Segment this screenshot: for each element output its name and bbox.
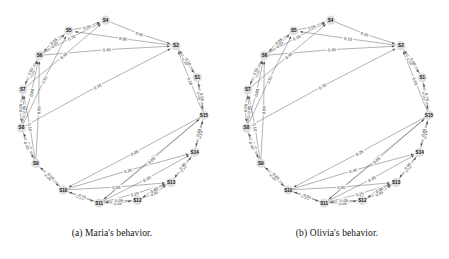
graph-node-s13[interactable]: S13 — [167, 178, 176, 187]
graph-node-s8[interactable]: S8 — [17, 123, 26, 132]
graph-node-s1[interactable]: S1 — [418, 73, 427, 82]
graph-node-s5[interactable]: S5 — [64, 26, 73, 35]
graph-node-s2[interactable]: S2 — [396, 41, 405, 50]
edge-label-group: 0.20 — [122, 167, 133, 175]
edge-label-group: 0.05 — [81, 23, 92, 31]
edge-label-group: 0.40 — [326, 47, 337, 53]
edge-arrow-icon — [248, 96, 250, 99]
edge-weight-label: 0.50 — [337, 184, 346, 190]
node-label: S4 — [103, 18, 109, 23]
panel-a: 0.050.050.500.050.050.400.050.050.400.05… — [0, 0, 224, 259]
graph-node-s4[interactable]: S4 — [101, 16, 110, 25]
edge-arrow-icon — [353, 201, 356, 203]
graph-node-s11[interactable]: S11 — [320, 199, 329, 208]
graph-node-s1[interactable]: S1 — [193, 73, 202, 82]
node-label: S14 — [416, 150, 425, 155]
graph-node-s9[interactable]: S9 — [31, 159, 40, 168]
edge-label-group: 0.25 — [354, 148, 366, 157]
edge-label-group: 0.80 — [28, 87, 35, 98]
graph-node-s2[interactable]: S2 — [171, 41, 180, 50]
edge-label-group: 0.50 — [265, 74, 274, 86]
edge-label-group: 0.90 — [118, 36, 129, 42]
graph-node-s6[interactable]: S6 — [260, 51, 269, 60]
edge-label-group: 0.10 — [141, 174, 153, 183]
graph-node-s8[interactable]: S8 — [242, 123, 251, 132]
edge-weight-label: 0.10 — [344, 36, 353, 42]
edge-label-group: 0.55 — [111, 184, 122, 190]
graph-b: 0.050.050.500.050.050.400.050.050.400.10… — [225, 0, 449, 225]
caption-b: (b) Olivia's behavior. — [225, 228, 449, 238]
graph-node-s13[interactable]: S13 — [392, 178, 401, 187]
node-label: S9 — [258, 161, 264, 166]
node-label: S15 — [425, 113, 434, 118]
panel-b: 0.050.050.500.050.050.400.050.050.400.10… — [225, 0, 449, 259]
node-label: S13 — [392, 180, 401, 185]
graph-node-s4[interactable]: S4 — [326, 16, 335, 25]
graph-node-s14[interactable]: S14 — [190, 148, 199, 157]
node-label: S7 — [245, 87, 251, 92]
node-label: S6 — [262, 53, 268, 58]
node-label: S5 — [66, 28, 72, 33]
edge-label-group: 0.50 — [336, 184, 347, 190]
graph-node-s9[interactable]: S9 — [256, 159, 265, 168]
graph-node-s11[interactable]: S11 — [95, 199, 104, 208]
edge-arrow-icon — [23, 96, 25, 99]
edge-label-group: 0.50 — [40, 74, 49, 86]
edge-label-group: 0.80 — [36, 105, 41, 116]
edge-label-group: 0.70 — [317, 82, 329, 91]
graph-node-s12[interactable]: S12 — [358, 196, 367, 205]
edge-weight-label: 0.40 — [103, 47, 112, 53]
edge-label-group: 0.05 — [18, 103, 23, 114]
edge-arrow-icon — [263, 62, 265, 65]
edge-arrow-icon — [167, 45, 170, 47]
graph-node-s15[interactable]: S15 — [199, 111, 208, 120]
edge-arrow-icon — [128, 201, 131, 203]
node-label: S8 — [244, 125, 250, 130]
edge-arrow-icon — [423, 84, 425, 87]
edge-label-group: 0.40 — [101, 47, 112, 53]
node-label: S1 — [419, 75, 425, 80]
edge-label-group: 0.40 — [347, 167, 358, 175]
node-label: S4 — [328, 18, 334, 23]
edge-weight-label: 0.05 — [340, 198, 349, 204]
graph-a: 0.050.050.500.050.050.400.050.050.400.05… — [0, 0, 224, 225]
edge-arrow-icon — [38, 62, 40, 65]
node-label: S11 — [95, 201, 103, 206]
node-label: S2 — [398, 43, 404, 48]
graph-node-s10[interactable]: S10 — [284, 185, 293, 194]
graph-node-s14[interactable]: S14 — [415, 148, 424, 157]
edge-weight-label: 0.40 — [328, 47, 337, 53]
node-label: S14 — [191, 150, 200, 155]
graph-node-s6[interactable]: S6 — [35, 51, 44, 60]
node-label: S2 — [173, 43, 179, 48]
edge-arrow-icon — [175, 175, 177, 178]
edge-arrow-icon — [186, 155, 189, 157]
edge-weight-label: 0.80 — [261, 105, 266, 114]
edge-weight-label: 0.05 — [115, 198, 124, 204]
edge-arrow-icon — [245, 119, 247, 122]
edge-label-group: 0.05 — [129, 148, 141, 157]
edge-weight-label: 0.90 — [119, 36, 128, 42]
edge-arrow-icon — [392, 45, 395, 47]
node-label: S12 — [358, 198, 367, 203]
graph-node-s15[interactable]: S15 — [424, 111, 433, 120]
graph-node-s7[interactable]: S7 — [243, 85, 252, 94]
node-label: S5 — [291, 28, 297, 33]
edge-label-group: 0.10 — [359, 30, 370, 38]
node-label: S8 — [19, 125, 25, 130]
state-transition-diagram-a: 0.050.050.500.050.050.400.050.050.400.05… — [0, 0, 224, 225]
node-label: S1 — [194, 75, 200, 80]
graph-node-s10[interactable]: S10 — [59, 185, 68, 194]
node-label: S9 — [33, 161, 39, 166]
edge-label-group: 0.05 — [306, 23, 317, 31]
edge-arrow-icon — [411, 155, 414, 157]
edge-arrow-icon — [400, 175, 402, 178]
edge-label-group: 0.10 — [343, 36, 354, 42]
graph-node-s5[interactable]: S5 — [289, 26, 298, 35]
edge-weight-label: 0.80 — [36, 105, 41, 114]
graph-node-s7[interactable]: S7 — [18, 85, 27, 94]
edge-arrow-icon — [162, 182, 165, 184]
graph-node-s12[interactable]: S12 — [133, 196, 142, 205]
caption-a: (a) Maria's behavior. — [0, 228, 224, 238]
node-label: S15 — [200, 113, 209, 118]
